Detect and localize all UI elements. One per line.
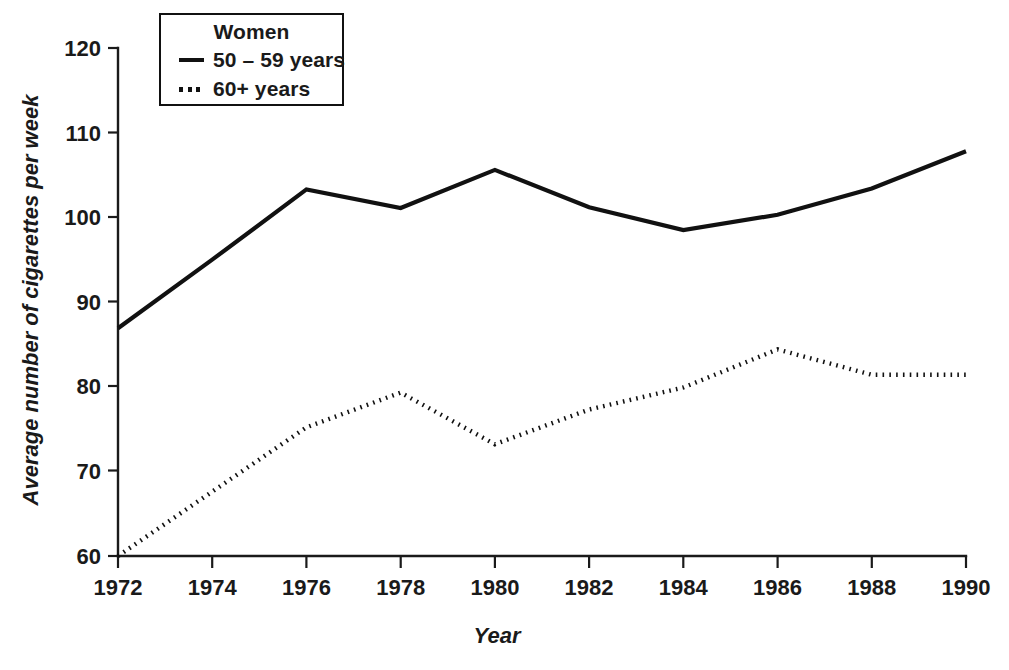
y-axis-ticks	[108, 48, 118, 556]
x-tick-label: 1990	[942, 575, 991, 600]
chart-legend: Women 50 – 59 years 60+ years	[159, 13, 344, 106]
dotted-line-swatch-icon	[178, 80, 205, 98]
x-tick-label: 1980	[470, 575, 519, 600]
legend-item-60-plus-years: 60+ years	[161, 76, 342, 103]
series-line-60-plus-years	[118, 349, 966, 556]
y-axis-title: Average number of cigarettes per week	[18, 93, 43, 507]
y-tick-label: 80	[77, 374, 101, 399]
y-axis-tick-labels: 120 110 100 90 80 70 60	[64, 36, 101, 569]
legend-item-label: 50 – 59 years	[213, 48, 345, 72]
x-axis-tick-labels: 1972 1974 1976 1978 1980 1982 1984 1986 …	[94, 575, 991, 600]
cigarette-consumption-line-chart: 120 110 100 90 80 70 60 1972 1974 1976	[0, 0, 1009, 670]
y-tick-label: 90	[77, 290, 101, 315]
legend-item-50-59-years: 50 – 59 years	[161, 47, 342, 74]
x-tick-label: 1978	[376, 575, 425, 600]
x-tick-label: 1988	[847, 575, 896, 600]
y-tick-label: 100	[64, 205, 101, 230]
solid-line-swatch-icon	[178, 51, 205, 69]
x-tick-label: 1986	[753, 575, 802, 600]
x-axis-ticks	[118, 556, 966, 568]
y-tick-label: 120	[64, 36, 101, 61]
legend-title: Women	[161, 20, 342, 45]
x-tick-label: 1974	[188, 575, 238, 600]
chart-canvas: 120 110 100 90 80 70 60 1972 1974 1976	[0, 0, 1009, 670]
legend-item-label: 60+ years	[213, 77, 310, 101]
y-tick-label: 70	[77, 459, 101, 484]
x-tick-label: 1976	[282, 575, 331, 600]
x-axis-title: Year	[474, 623, 522, 648]
series-line-50-59-years	[118, 151, 966, 328]
x-tick-label: 1982	[565, 575, 614, 600]
y-tick-label: 60	[77, 544, 101, 569]
y-tick-label: 110	[66, 121, 102, 146]
x-tick-label: 1972	[94, 575, 143, 600]
x-tick-label: 1984	[659, 575, 709, 600]
